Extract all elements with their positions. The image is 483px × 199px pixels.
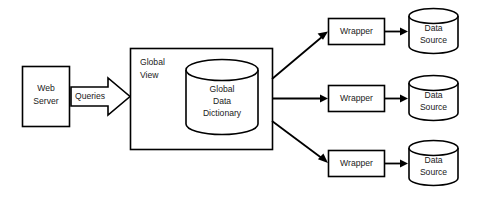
wrapper-2-label: Wrapper <box>340 93 373 103</box>
connector-wrapper-1-to-data-source-1 <box>385 28 408 36</box>
data-source-1-label-line2: Source <box>420 35 447 45</box>
node-wrapper-3[interactable]: Wrapper <box>329 151 385 177</box>
arrowhead-gv-w2 <box>320 95 328 103</box>
global-data-dictionary-label-line1: Global <box>210 84 235 94</box>
diagram-canvas: Web Server Queries Global View Global Da… <box>0 0 483 199</box>
data-source-3-label-line2: Source <box>420 167 447 177</box>
node-data-source-1[interactable]: Data Source <box>409 9 458 54</box>
connector-globalview-to-wrapper-2 <box>272 95 328 103</box>
node-wrapper-1[interactable]: Wrapper <box>329 19 385 45</box>
node-global-data-dictionary[interactable]: Global Data Dictionary <box>186 60 258 135</box>
wrapper-1-label: Wrapper <box>340 26 373 36</box>
global-view-label-line2: View <box>140 70 159 80</box>
connector-line-gv-w1 <box>272 36 323 79</box>
connector-line-gv-w3 <box>272 121 323 159</box>
global-data-dictionary-top <box>186 60 258 81</box>
wrapper-3-label: Wrapper <box>340 158 373 168</box>
queries-arrow-label: Queries <box>75 91 105 101</box>
connector-globalview-to-wrapper-3 <box>272 121 328 163</box>
web-server-label-line2: Server <box>33 96 58 106</box>
data-source-3-top <box>409 141 458 156</box>
data-source-2-label-line2: Source <box>420 102 447 112</box>
global-data-dictionary-label-line3: Dictionary <box>203 108 242 118</box>
arrowhead-w3-ds3 <box>400 160 408 168</box>
data-source-2-top <box>409 76 458 91</box>
global-view-label-line1: Global <box>140 57 165 67</box>
arrowhead-gv-w3 <box>318 154 328 163</box>
arrowhead-w2-ds2 <box>400 95 408 103</box>
node-web-server[interactable]: Web Server <box>23 67 70 127</box>
data-source-2-label-line1: Data <box>424 90 442 100</box>
data-source-3-label-line1: Data <box>424 155 442 165</box>
node-wrapper-2[interactable]: Wrapper <box>329 86 385 112</box>
web-server-label-line1: Web <box>37 83 55 93</box>
connector-globalview-to-wrapper-1 <box>272 32 328 80</box>
arrowhead-w1-ds1 <box>400 28 408 36</box>
connector-wrapper-3-to-data-source-3 <box>385 160 408 168</box>
architecture-diagram: Web Server Queries Global View Global Da… <box>0 0 483 199</box>
connector-wrapper-2-to-data-source-2 <box>385 95 408 103</box>
data-source-1-label-line1: Data <box>424 23 442 33</box>
connector-queries-block-arrow[interactable]: Queries <box>71 78 130 115</box>
node-data-source-3[interactable]: Data Source <box>409 141 458 186</box>
global-data-dictionary-label-line2: Data <box>213 96 231 106</box>
node-data-source-2[interactable]: Data Source <box>409 76 458 121</box>
data-source-1-top <box>409 9 458 24</box>
